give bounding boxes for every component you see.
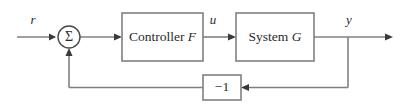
- controller-block-label-var: F: [187, 29, 197, 44]
- system-block-label-var: G: [292, 29, 302, 44]
- system-block-label-text: System: [249, 29, 289, 44]
- arrowhead-output-terminal: [385, 33, 393, 40]
- block-diagram-svg: Σ Controller F System G −1 r u y: [0, 0, 410, 109]
- controller-block-label: Controller F: [129, 29, 197, 44]
- reference-signal-label: r: [30, 12, 36, 27]
- controller-block-label-text: Controller: [129, 29, 185, 44]
- arrowhead-into-sum-feedback: [66, 48, 73, 56]
- feedback-gain-block: −1: [203, 75, 241, 100]
- arrowhead-into-controller: [114, 33, 122, 40]
- feedback-gain-block-label: −1: [215, 79, 229, 94]
- wire-reference-input: [17, 34, 56, 41]
- summing-junction-label: Σ: [65, 29, 73, 44]
- arrowhead-into-sum: [49, 34, 56, 41]
- output-signal-label: y: [344, 12, 352, 27]
- arrowhead-into-gain: [241, 84, 249, 91]
- system-block-label: System G: [249, 29, 302, 44]
- wire-sum-to-controller: [80, 33, 122, 40]
- block-diagram-canvas: Σ Controller F System G −1 r u y: [0, 0, 410, 109]
- controller-block: Controller F: [122, 13, 203, 61]
- wire-controller-to-system: [203, 33, 236, 40]
- control-signal-label: u: [210, 12, 217, 27]
- system-block: System G: [236, 13, 314, 61]
- summing-junction: Σ: [58, 26, 80, 48]
- wire-system-to-output: [314, 33, 393, 40]
- arrowhead-into-system: [228, 33, 236, 40]
